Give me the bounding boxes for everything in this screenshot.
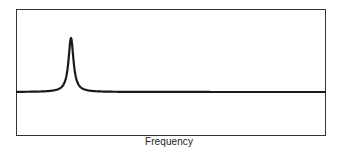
x-axis-label: Frequency bbox=[0, 136, 338, 147]
plot-frame bbox=[17, 10, 326, 136]
spectrum-line bbox=[16, 38, 326, 92]
spectrum-chart bbox=[0, 0, 338, 153]
